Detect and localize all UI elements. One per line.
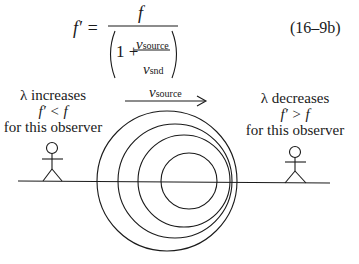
velocity-arrow-icon — [125, 96, 206, 106]
left-observer-figure-icon — [42, 143, 63, 182]
wavefront-circle — [161, 153, 217, 209]
right-paren — [172, 31, 177, 78]
doppler-diagram — [0, 0, 359, 264]
left-paren — [111, 31, 116, 78]
right-observer-figure-icon — [285, 147, 306, 184]
ground-line — [18, 181, 330, 183]
wavefront-circle — [118, 124, 232, 238]
wavefront-circle — [138, 135, 230, 227]
